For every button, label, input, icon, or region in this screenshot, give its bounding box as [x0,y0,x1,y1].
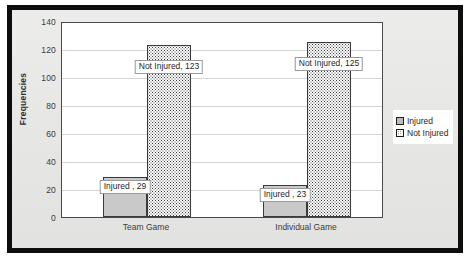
y-tick-120: 120 [41,45,56,55]
plot-inner: Injured , 29 Not Injured, 123 Injured , … [62,23,382,217]
data-label-team-game-not-injured: Not Injured, 123 [135,60,203,74]
legend-swatch-icon-injured [396,117,404,125]
chart-figure: Frequencies 140 120 100 80 60 40 20 0 [0,0,470,261]
bar-chart: Frequencies 140 120 100 80 60 40 20 0 [12,10,458,248]
plot-area: Injured , 29 Not Injured, 123 Injured , … [61,22,383,218]
x-tick-individual-game: Individual Game [275,222,336,232]
data-label-team-game-injured: Injured , 29 [100,180,151,194]
y-tick-0: 0 [51,213,56,223]
y-tick-140: 140 [41,17,56,27]
chart-legend: Injured Not Injured [393,110,453,144]
y-tick-60: 60 [46,129,56,139]
y-axis-ticks: 140 120 100 80 60 40 20 0 [12,22,56,218]
legend-item-not-injured: Not Injured [396,128,449,138]
legend-label-not-injured: Not Injured [407,128,449,138]
y-tick-100: 100 [41,73,56,83]
x-axis-labels: Team Game Individual Game [61,222,383,238]
data-label-individual-game-injured: Injured , 23 [260,188,311,202]
y-tick-40: 40 [46,157,56,167]
legend-item-injured: Injured [396,116,449,126]
legend-label-injured: Injured [407,116,433,126]
x-tick-team-game: Team Game [123,222,169,232]
y-tick-80: 80 [46,101,56,111]
legend-swatch-icon-not-injured [396,129,404,137]
y-tick-20: 20 [46,185,56,195]
data-label-individual-game-not-injured: Not Injured, 125 [295,57,363,71]
